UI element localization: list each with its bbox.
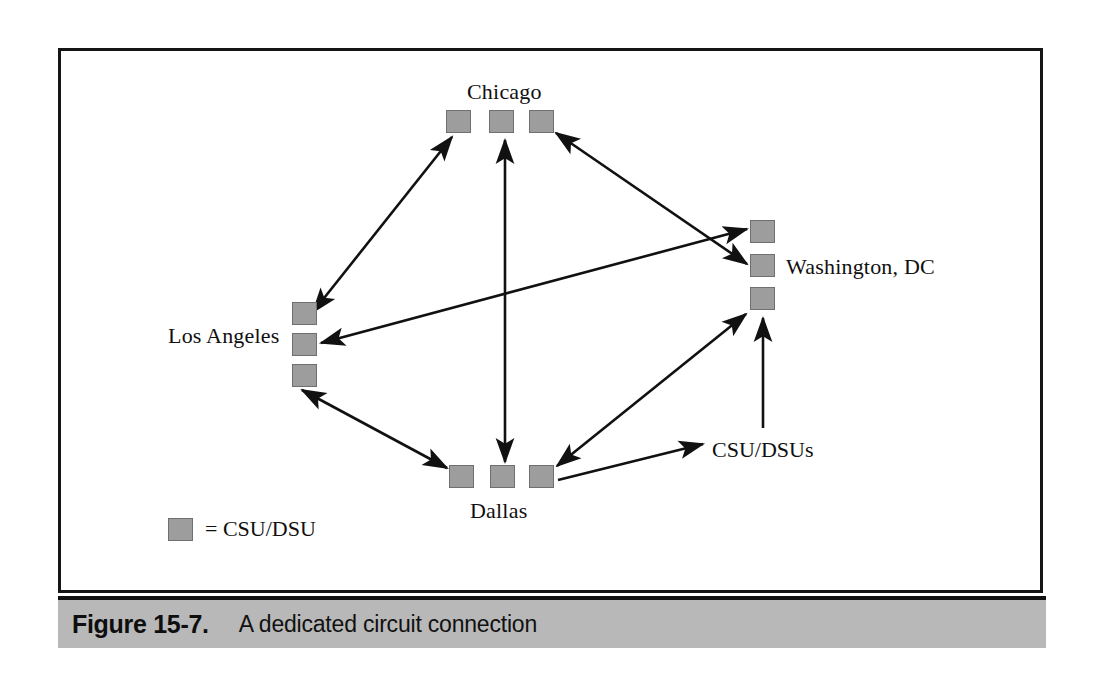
csu-dsu-device-washington-dc-3 (750, 287, 775, 310)
site-label-chicago: Chicago (467, 79, 542, 105)
csu-dsu-device-dallas-1 (449, 465, 474, 488)
csu-dsu-device-los-angeles-3 (292, 364, 317, 387)
figure-page: ChicagoWashington, DCLos AngelesDallas C… (0, 0, 1096, 699)
csu-dsu-device-chicago-1 (446, 110, 471, 133)
legend: = CSU/DSU (168, 516, 316, 542)
csu-dsu-device-chicago-2 (489, 110, 514, 133)
csu-dsu-device-dallas-2 (490, 465, 515, 488)
site-label-dallas: Dallas (470, 498, 527, 524)
csu-dsu-device-los-angeles-1 (292, 302, 317, 325)
callout-label: CSU/DSUs (712, 437, 813, 463)
legend-label: = CSU/DSU (205, 516, 316, 542)
figure-caption-band: Figure 15-7. A dedicated circuit connect… (58, 596, 1046, 648)
site-label-washington-dc: Washington, DC (786, 254, 935, 280)
csu-dsu-device-los-angeles-2 (292, 333, 317, 356)
csu-dsu-device-dallas-3 (529, 465, 554, 488)
csu-dsu-device-washington-dc-2 (750, 254, 775, 277)
gray-square-icon (168, 518, 193, 541)
figure-number: Figure 15-7. (72, 610, 209, 639)
figure-title: A dedicated circuit connection (239, 611, 537, 638)
csu-dsu-device-chicago-3 (529, 110, 554, 133)
csu-dsu-device-washington-dc-1 (750, 220, 775, 243)
site-label-los-angeles: Los Angeles (168, 323, 280, 349)
